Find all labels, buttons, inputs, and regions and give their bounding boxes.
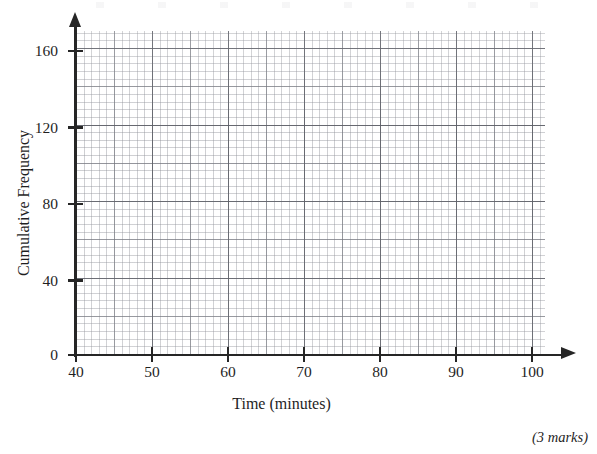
x-tick-label-60: 60 bbox=[220, 364, 236, 380]
x-tick-label-90: 90 bbox=[448, 364, 464, 380]
x-tick-label-50: 50 bbox=[144, 364, 160, 380]
x-tick-label-40: 40 bbox=[68, 364, 84, 380]
x-tick-label-70: 70 bbox=[296, 364, 312, 380]
y-axis-line bbox=[74, 24, 77, 357]
plot-grid-area bbox=[76, 31, 545, 355]
x-tick-80 bbox=[379, 347, 381, 362]
x-tick-70 bbox=[303, 347, 305, 362]
x-tick-90 bbox=[455, 347, 457, 362]
x-tick-40 bbox=[75, 347, 77, 362]
y-axis-title: Cumulative Frequency bbox=[13, 0, 35, 454]
y-axis-arrow-icon bbox=[69, 12, 81, 27]
x-axis-arrow-icon bbox=[561, 347, 576, 359]
x-tick-100 bbox=[531, 347, 533, 362]
x-tick-label-100: 100 bbox=[520, 364, 543, 380]
y-tick-80 bbox=[68, 203, 83, 205]
y-tick-40 bbox=[68, 279, 83, 281]
y-tick-160 bbox=[68, 50, 83, 52]
x-tick-50 bbox=[151, 347, 153, 362]
scan-artifact bbox=[70, 2, 540, 8]
graph-figure: 160 120 80 40 0 40 50 60 70 80 90 100 Ti… bbox=[0, 0, 597, 454]
y-tick-120 bbox=[68, 126, 83, 128]
x-axis-title: Time (minutes) bbox=[0, 395, 597, 413]
marks-note: (3 marks) bbox=[532, 429, 588, 446]
x-tick-60 bbox=[227, 347, 229, 362]
x-tick-label-80: 80 bbox=[372, 364, 388, 380]
x-axis-line bbox=[74, 354, 566, 357]
